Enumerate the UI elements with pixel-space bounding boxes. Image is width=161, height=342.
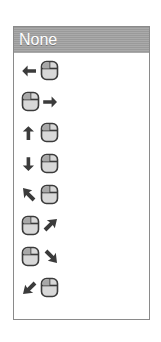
arrow-down-left-icon [20, 277, 39, 299]
mouse-icon [20, 245, 41, 268]
arrow-up-left-icon [20, 184, 39, 206]
mouse-icon [39, 183, 60, 206]
listbox-option-mouse-move-left[interactable] [14, 55, 149, 86]
listbox-option-mouse-move-down[interactable] [14, 148, 149, 179]
listbox-options [14, 53, 149, 303]
listbox-option-mouse-move-up-left[interactable] [14, 179, 149, 210]
listbox-option-mouse-move-down-left[interactable] [14, 272, 149, 303]
mouse-icon [20, 90, 41, 113]
mouse-icon [39, 152, 60, 175]
arrow-down-icon [20, 153, 39, 175]
listbox-option-mouse-move-up[interactable] [14, 117, 149, 148]
mouse-icon [39, 59, 60, 82]
arrow-up-icon [20, 122, 39, 144]
mouse-action-listbox[interactable]: None [13, 26, 150, 320]
listbox-option-mouse-move-down-right[interactable] [14, 241, 149, 272]
arrow-right-icon [41, 91, 60, 113]
listbox-option-mouse-move-right[interactable] [14, 86, 149, 117]
mouse-icon [39, 121, 60, 144]
mouse-icon [39, 276, 60, 299]
arrow-down-right-icon [41, 246, 60, 268]
listbox-selected-label: None [19, 32, 57, 48]
arrow-up-right-icon [41, 215, 60, 237]
mouse-icon [20, 214, 41, 237]
arrow-left-icon [20, 60, 39, 82]
listbox-selected-item[interactable]: None [14, 27, 149, 53]
listbox-option-mouse-move-up-right[interactable] [14, 210, 149, 241]
